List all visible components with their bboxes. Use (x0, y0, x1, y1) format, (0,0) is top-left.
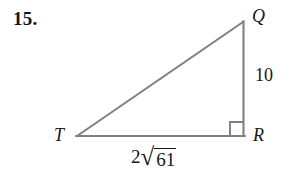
figure-page: 15. Q R T 10 2√61 (0, 0, 289, 179)
vertex-label-q: Q (252, 7, 265, 25)
problem-number: 15. (13, 9, 37, 28)
right-angle-marker-icon (230, 122, 244, 136)
vertex-label-r: R (253, 126, 264, 144)
radical-sign-icon: √ (141, 147, 155, 167)
side-length-label-tr: 2√61 (131, 147, 176, 169)
radicand: 61 (154, 148, 176, 169)
vertex-label-t: T (54, 126, 64, 144)
triangle-side-hypotenuse-tq (77, 22, 243, 136)
radical-coefficient: 2 (131, 147, 141, 166)
side-length-label-qr: 10 (255, 66, 273, 84)
